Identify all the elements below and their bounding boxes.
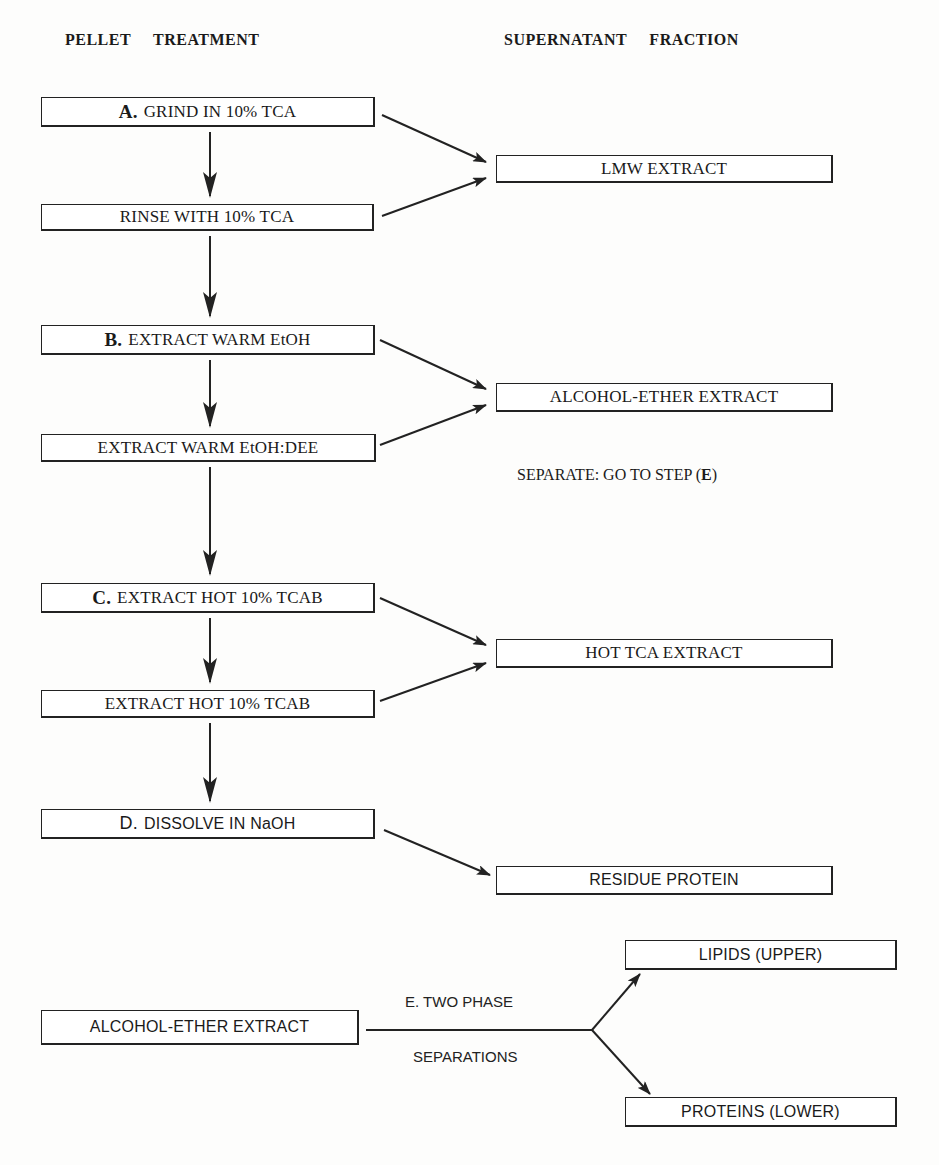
step-b-box: B. EXTRACT WARM EtOH: [41, 325, 375, 355]
hot-tca-extract-label: HOT TCA EXTRACT: [585, 643, 742, 663]
rinse-box: RINSE WITH 10% TCA: [41, 204, 374, 231]
extract-etoh-dee-label: EXTRACT WARM EtOH:DEE: [98, 438, 319, 458]
lipids-upper-box: LIPIDS (UPPER): [625, 940, 897, 970]
step-d-letter: D.: [120, 813, 138, 834]
alcohol-ether-extract-box: ALCOHOL-ETHER EXTRACT: [496, 383, 833, 412]
alcohol-ether-extract-label: ALCOHOL-ETHER EXTRACT: [550, 387, 778, 407]
step-e-label-top: E. TWO PHASE: [405, 993, 513, 1010]
step-d-box: D. DISSOLVE IN NaOH: [41, 809, 375, 839]
step-c-letter: C.: [92, 587, 111, 609]
step-d-label: DISSOLVE IN NaOH: [144, 815, 295, 833]
lipids-upper-label: LIPIDS (UPPER): [699, 946, 823, 964]
step-b-letter: B.: [104, 329, 122, 351]
alcohol-ether-source-box: ALCOHOL-ETHER EXTRACT: [41, 1010, 359, 1045]
residue-protein-label: RESIDUE PROTEIN: [589, 871, 739, 889]
step-b-label: EXTRACT WARM EtOH: [128, 330, 310, 350]
hot-tca-extract-box: HOT TCA EXTRACT: [496, 639, 833, 668]
step-a-letter: A.: [119, 101, 138, 123]
flowchart-canvas: PELLET TREATMENT SUPERNATANT FRACTION A.…: [0, 0, 939, 1165]
header-pellet-treatment: PELLET TREATMENT: [65, 31, 260, 49]
proteins-lower-label: PROTEINS (LOWER): [681, 1103, 840, 1121]
separate-step-ref: E: [701, 466, 712, 483]
step-c-box: C. EXTRACT HOT 10% TCAB: [41, 583, 375, 613]
extract-hot-tcab-label: EXTRACT HOT 10% TCAB: [105, 694, 311, 714]
step-a-box: A. GRIND IN 10% TCA: [41, 97, 375, 127]
lmw-extract-label: LMW EXTRACT: [601, 159, 727, 179]
step-a-label: GRIND IN 10% TCA: [144, 102, 297, 122]
separate-note: SEPARATE: GO TO STEP (E): [517, 466, 717, 484]
alcohol-ether-source-label: ALCOHOL-ETHER EXTRACT: [90, 1018, 309, 1036]
header-supernatant-fraction: SUPERNATANT FRACTION: [504, 31, 739, 49]
proteins-lower-box: PROTEINS (LOWER): [625, 1097, 897, 1127]
step-e-label-bottom: SEPARATIONS: [413, 1048, 517, 1065]
step-c-label: EXTRACT HOT 10% TCAB: [117, 588, 323, 608]
lmw-extract-box: LMW EXTRACT: [496, 155, 833, 183]
residue-protein-box: RESIDUE PROTEIN: [496, 866, 833, 895]
rinse-label: RINSE WITH 10% TCA: [120, 207, 294, 227]
extract-hot-tcab-box: EXTRACT HOT 10% TCAB: [41, 690, 375, 718]
extract-etoh-dee-box: EXTRACT WARM EtOH:DEE: [41, 434, 376, 462]
